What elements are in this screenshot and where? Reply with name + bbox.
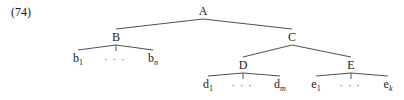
tree-node-b1: b1 [73,51,83,67]
tree-edge-A-B [116,19,203,29]
ellipsis-node: · · · [231,79,253,91]
tree-node-dm: dm [274,77,286,93]
tree-edges [78,19,388,79]
tree-node-B: B [112,30,120,44]
tree-node-bn: bn [148,51,158,67]
ellipsis-node: · · · [104,53,126,65]
tree-edge-E-e1 [316,73,351,76]
tree-edge-D-d1 [208,73,243,76]
tree-node-E: E [347,58,354,72]
tree-node-D: D [239,58,248,72]
syntax-tree-diagram: (74) ABCb1· · ·bnDEd1· · ·dme1· · ·ek [0,0,404,100]
tree-edge-C-D [243,45,292,57]
tree-edge-E-ek [351,73,388,76]
tree-nodes: ABCb1· · ·bnDEd1· · ·dme1· · ·ek [73,4,393,93]
tree-edge-D-dm [243,73,280,76]
tree-edge-B-b1 [78,45,116,50]
tree-node-A: A [199,4,208,18]
tree-edge-B-bn [116,45,153,50]
tree-edge-C-E [292,45,351,57]
tree-node-C: C [288,30,296,44]
tree-edge-A-C [203,19,292,29]
tree-node-d1: d1 [203,77,213,93]
tree-node-ek: ek [384,77,393,93]
example-number: (74) [11,5,31,19]
tree-node-e1: e1 [311,77,320,93]
ellipsis-node: · · · [339,79,361,91]
